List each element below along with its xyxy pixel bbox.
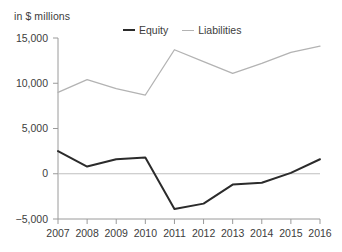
x-axis-tick-label: 2013	[221, 227, 245, 239]
line-series-equity	[58, 151, 320, 209]
line-series-liabilities	[58, 46, 320, 95]
x-axis-tick-label: 2007	[46, 227, 70, 239]
x-axis-tick-label: 2014	[250, 227, 274, 239]
y-axis-tick-label: 5,000	[22, 122, 48, 134]
x-axis-tick-group	[58, 219, 320, 224]
y-axis-tick-label: 15,000	[16, 32, 48, 44]
chart-container: in $ millions Equity Liabilities −5,0000…	[0, 0, 342, 252]
y-axis-tick-label: −5,000	[16, 213, 49, 225]
y-axis-tick-label: 0	[42, 167, 48, 179]
y-axis-labels: −5,00005,00010,00015,000	[16, 32, 49, 225]
x-axis-labels: 2007200820092010201120122013201420152016	[46, 227, 332, 239]
x-axis-tick-label: 2016	[308, 227, 332, 239]
x-axis-tick-label: 2010	[134, 227, 158, 239]
x-axis-tick-label: 2008	[75, 227, 99, 239]
x-axis-tick-label: 2012	[192, 227, 216, 239]
y-axis-tick-group	[53, 38, 58, 219]
chart-plot-area: −5,00005,00010,00015,000 200720082009201…	[0, 0, 342, 252]
y-axis-tick-label: 10,000	[16, 77, 48, 89]
x-axis-tick-label: 2009	[105, 227, 129, 239]
x-axis-tick-label: 2015	[279, 227, 303, 239]
x-axis-tick-label: 2011	[163, 227, 186, 239]
